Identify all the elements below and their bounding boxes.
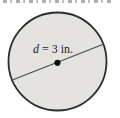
- center-dot: [54, 60, 60, 66]
- diameter-label: d = 3 in.: [33, 42, 73, 56]
- figure-canvas: d = 3 in.: [0, 0, 120, 118]
- circle-diagram: d = 3 in.: [0, 0, 120, 118]
- diameter-value: = 3 in.: [39, 42, 73, 56]
